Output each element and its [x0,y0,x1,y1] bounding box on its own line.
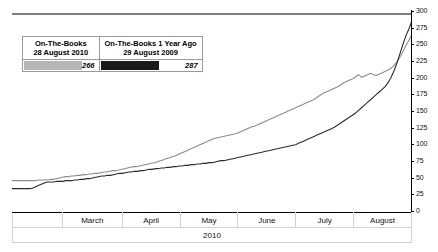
y-axis-tick-mark [411,161,414,162]
x-axis-label-blank [13,213,63,228]
x-axis: MarchAprilMayJuneJulyAugust 2010 [12,212,412,243]
x-axis-label-may: May [180,213,238,228]
legend-header-series-1: On-The-Books 1 Year Ago 29 August 2009 [99,37,202,60]
x-axis-year-row: 2010 [13,228,412,243]
x-axis-months-row: MarchAprilMayJuneJulyAugust [13,213,412,228]
y-axis-tick-label: 300 [416,7,427,15]
y-axis-tick-label: 250 [416,40,427,48]
legend-value-series-1: 287 [159,60,202,71]
y-axis-tick-mark [411,28,414,29]
x-axis-label-july: July [296,213,354,228]
legend-value-cell-series-0: 266 [23,60,100,72]
y-axis-tick-mark [411,78,414,79]
legend-title-line2-series-1: 29 August 2009 [123,48,178,57]
y-axis-tick-mark [411,61,414,62]
y-axis-tick-mark [411,144,414,145]
legend-title-line1-series-1: On-The-Books 1 Year Ago [105,39,197,48]
y-axis-tick-mark [411,128,414,129]
y-axis-tick-mark [411,44,414,45]
y-axis: 3002752502252001751501251007550250 [411,10,438,214]
y-axis-tick-label: 25 [416,190,423,198]
y-axis-tick-label: 175 [416,90,427,98]
y-axis-tick-label: 0 [416,207,420,215]
legend-header-series-0: On-The-Books 28 August 2010 [23,37,100,60]
legend-title-line2-series-0: 28 August 2010 [33,48,88,57]
x-axis-label-march: March [62,213,122,228]
x-axis-year-label: 2010 [13,228,412,243]
legend-value-series-0: 266 [82,60,99,71]
x-axis-label-june: June [238,213,296,228]
chart-legend: On-The-Books 28 August 2010 On-The-Books… [22,36,203,72]
y-axis-tick-mark [411,178,414,179]
legend-title-line1-series-0: On-The-Books [35,39,87,48]
y-axis-tick-label: 150 [416,107,427,115]
y-axis-tick-label: 125 [416,124,427,132]
y-axis-tick-label: 225 [416,57,427,65]
legend-swatch-series-1 [101,61,159,70]
y-axis-tick-mark [411,111,414,112]
legend-value-cell-series-1: 287 [99,60,202,72]
x-axis-label-august: August [354,213,412,228]
y-axis-tick-label: 50 [416,174,423,182]
x-axis-label-april: April [122,213,180,228]
chart-container: On-The-Books 28 August 2010 On-The-Books… [0,0,438,252]
legend-header-row: On-The-Books 28 August 2010 On-The-Books… [23,37,203,60]
legend-swatch-series-0 [24,61,82,70]
y-axis-tick-mark [411,94,414,95]
legend-value-row: 266 287 [23,60,203,72]
y-axis-tick-label: 75 [416,157,423,165]
y-axis-tick-mark [411,194,414,195]
y-axis-tick-label: 275 [416,24,427,32]
y-axis-tick-label: 100 [416,140,427,148]
y-axis-tick-mark [411,11,414,12]
y-axis-tick-label: 200 [416,74,427,82]
